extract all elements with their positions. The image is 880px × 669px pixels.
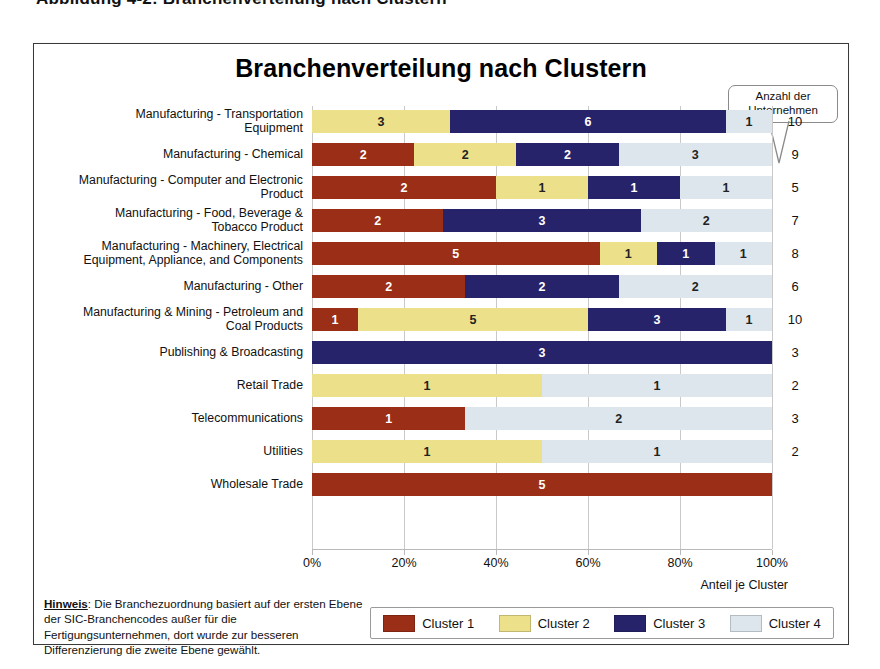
bar-segment-cluster-4[interactable]: 3: [619, 143, 772, 166]
footnote-label: Hinweis: [44, 597, 88, 610]
bar-segment-cluster-2[interactable]: 3: [312, 110, 450, 133]
legend-swatch-icon: [614, 615, 646, 632]
bar-segment-cluster-1[interactable]: 2: [312, 143, 414, 166]
stacked-bar[interactable]: 361: [312, 110, 772, 133]
row-total: 9: [772, 147, 818, 162]
bar-segment-cluster-3[interactable]: 6: [450, 110, 726, 133]
footnote: Hinweis: Die Branchezuordnung basiert au…: [44, 596, 364, 657]
category-label: Telecommunications: [34, 412, 312, 426]
bar-segment-cluster-3[interactable]: 3: [588, 308, 726, 331]
chart-row: Manufacturing - Computer and ElectronicP…: [34, 172, 848, 203]
category-label: Manufacturing - Food, Beverage &Tobacco …: [34, 207, 312, 235]
category-label: Manufacturing - TransportationEquipment: [34, 108, 312, 136]
chart-row: Publishing & Broadcasting33: [34, 337, 848, 368]
legend-item-cluster-4[interactable]: Cluster 4: [730, 615, 821, 632]
stacked-bar[interactable]: 2111: [312, 176, 772, 199]
bar-segment-cluster-1[interactable]: 2: [312, 209, 443, 232]
legend-item-cluster-2[interactable]: Cluster 2: [499, 615, 590, 632]
bar-segment-cluster-4[interactable]: 1: [542, 374, 772, 397]
x-tick: [496, 550, 497, 555]
category-label-line: Utilities: [34, 445, 303, 459]
category-label-line: Tobacco Product: [34, 221, 303, 235]
bar-segment-cluster-1[interactable]: 1: [312, 407, 465, 430]
bar-segment-cluster-2[interactable]: 1: [312, 440, 542, 463]
bar-segment-cluster-3[interactable]: 3: [312, 341, 772, 364]
bar-segment-cluster-3[interactable]: 2: [516, 143, 618, 166]
bar-segment-cluster-1[interactable]: 5: [312, 242, 600, 265]
stacked-bar[interactable]: 1531: [312, 308, 772, 331]
bar-segment-cluster-4[interactable]: 1: [542, 440, 772, 463]
x-tick-labels: 0%20%40%60%80%100%: [312, 556, 772, 574]
category-label-line: Manufacturing & Mining - Petroleum and: [34, 306, 303, 320]
bar-segment-cluster-4[interactable]: 2: [619, 275, 772, 298]
stacked-bar[interactable]: 232: [312, 209, 772, 232]
category-label-line: Manufacturing - Food, Beverage &: [34, 207, 303, 221]
chart-row: Utilities112: [34, 436, 848, 467]
stacked-bar[interactable]: 12: [312, 407, 772, 430]
stacked-bar[interactable]: 3: [312, 341, 772, 364]
bar-segment-cluster-2[interactable]: 1: [600, 242, 658, 265]
x-tick: [312, 550, 313, 555]
bar-segment-cluster-2[interactable]: 1: [496, 176, 588, 199]
category-label-line: Equipment, Appliance, and Components: [34, 254, 303, 268]
row-total: 8: [772, 246, 818, 261]
bar-segment-cluster-3[interactable]: 2: [465, 275, 618, 298]
legend-swatch-icon: [730, 615, 762, 632]
bar-segment-cluster-2[interactable]: 2: [414, 143, 516, 166]
stacked-bar[interactable]: 11: [312, 440, 772, 463]
bar-segment-cluster-1[interactable]: 2: [312, 176, 496, 199]
row-total: 7: [772, 213, 818, 228]
bar-segment-cluster-1[interactable]: 5: [312, 473, 772, 496]
row-total: 2: [772, 444, 818, 459]
category-label-line: Manufacturing - Transportation: [34, 108, 303, 122]
row-total: 3: [772, 411, 818, 426]
bar-segment-cluster-4[interactable]: 1: [726, 110, 772, 133]
category-label-line: Product: [34, 188, 303, 202]
bar-segment-cluster-3[interactable]: 3: [443, 209, 640, 232]
stacked-bar[interactable]: 11: [312, 374, 772, 397]
legend-item-cluster-1[interactable]: Cluster 1: [383, 615, 474, 632]
chart-row: Wholesale Trade5: [34, 469, 848, 500]
bar-segment-cluster-4[interactable]: 1: [726, 308, 772, 331]
chart-row: Telecommunications123: [34, 403, 848, 434]
legend-label: Cluster 3: [653, 616, 705, 631]
bar-segment-cluster-4[interactable]: 2: [641, 209, 772, 232]
stacked-bar[interactable]: 5: [312, 473, 772, 496]
bar-segment-cluster-4[interactable]: 1: [680, 176, 772, 199]
x-tick-label: 100%: [756, 556, 788, 570]
bar-segment-cluster-3[interactable]: 1: [657, 242, 715, 265]
callout-line-1: Anzahl der: [734, 90, 832, 104]
stacked-bar[interactable]: 2223: [312, 143, 772, 166]
bar-segment-cluster-1[interactable]: 2: [312, 275, 465, 298]
legend-swatch-icon: [383, 615, 415, 632]
bar-segment-cluster-4[interactable]: 1: [715, 242, 773, 265]
row-total: 10: [772, 312, 818, 327]
row-total: 10: [772, 114, 818, 129]
category-label-line: Manufacturing - Computer and Electronic: [34, 174, 303, 188]
category-label-line: Manufacturing - Machinery, Electrical: [34, 240, 303, 254]
category-label: Wholesale Trade: [34, 478, 312, 492]
category-label-line: Manufacturing - Chemical: [34, 148, 303, 162]
category-label: Publishing & Broadcasting: [34, 346, 312, 360]
x-tick-label: 0%: [303, 556, 321, 570]
chart-row: Retail Trade112: [34, 370, 848, 401]
legend-label: Cluster 4: [769, 616, 821, 631]
x-tick: [404, 550, 405, 555]
figure-caption: Abbildung 4-2: Branchenverteilung nach C…: [36, 0, 836, 7]
x-tick-label: 80%: [667, 556, 692, 570]
bar-segment-cluster-1[interactable]: 1: [312, 308, 358, 331]
legend-item-cluster-3[interactable]: Cluster 3: [614, 615, 705, 632]
legend: Cluster 1Cluster 2Cluster 3Cluster 4: [370, 607, 834, 639]
stacked-bar[interactable]: 5111: [312, 242, 772, 265]
bar-segment-cluster-2[interactable]: 1: [312, 374, 542, 397]
bar-segment-cluster-4[interactable]: 2: [465, 407, 772, 430]
category-label-line: Wholesale Trade: [34, 478, 303, 492]
chart-row: Manufacturing - Food, Beverage &Tobacco …: [34, 205, 848, 236]
bar-segment-cluster-2[interactable]: 5: [358, 308, 588, 331]
row-total: 6: [772, 279, 818, 294]
bar-segment-cluster-3[interactable]: 1: [588, 176, 680, 199]
stacked-bar[interactable]: 222: [312, 275, 772, 298]
chart-row: Manufacturing - TransportationEquipment3…: [34, 106, 848, 137]
x-tick: [772, 550, 773, 555]
category-label-line: Publishing & Broadcasting: [34, 346, 303, 360]
